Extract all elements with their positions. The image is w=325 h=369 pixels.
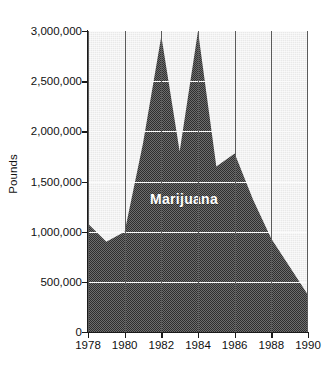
y-tick-label: 500,000: [12, 276, 86, 288]
vertical-gridline: [198, 31, 199, 332]
vertical-gridline: [271, 31, 272, 332]
y-tick-label: 2,000,000: [12, 125, 86, 137]
x-tick-label: 1982: [149, 339, 175, 351]
y-tick-label: 0: [12, 326, 86, 338]
y-tick-label: 2,500,000: [12, 75, 86, 87]
vertical-gridline: [235, 31, 236, 332]
y-tick-mark: [82, 282, 87, 283]
y-tick-mark: [82, 131, 87, 132]
x-tick-mark: [125, 333, 126, 338]
x-tick-label: 1984: [185, 339, 211, 351]
x-tick-label: 1990: [295, 339, 321, 351]
y-tick-label: 3,000,000: [12, 25, 86, 37]
y-tick-mark: [82, 31, 87, 32]
series-inline-label: Marijuana: [150, 191, 218, 207]
x-tick-mark: [161, 333, 162, 338]
x-tick-mark: [271, 333, 272, 338]
x-tick-label: 1980: [112, 339, 138, 351]
plot-area: Marijuana: [88, 31, 308, 332]
y-tick-mark: [82, 182, 87, 183]
y-tick-mark: [82, 332, 87, 333]
x-tick-mark: [235, 333, 236, 338]
y-axis-tick-labels: 0500,0001,000,0001,500,0002,000,0002,500…: [12, 0, 86, 369]
x-tick-label: 1986: [222, 339, 248, 351]
y-tick-label: 1,500,000: [12, 176, 86, 188]
y-axis-line: [87, 30, 88, 333]
y-tick-label: 1,000,000: [12, 226, 86, 238]
vertical-gridline: [307, 31, 308, 332]
vertical-gridline: [125, 31, 126, 332]
x-tick-mark: [308, 333, 309, 338]
x-tick-mark: [198, 333, 199, 338]
x-tick-label: 1988: [259, 339, 285, 351]
y-tick-mark: [82, 81, 87, 82]
vertical-gridline: [161, 31, 162, 332]
x-tick-mark: [88, 333, 89, 338]
chart-figure: Pounds 0500,0001,000,0001,500,0002,000,0…: [0, 0, 325, 369]
y-tick-mark: [82, 232, 87, 233]
x-tick-label: 1978: [75, 339, 101, 351]
